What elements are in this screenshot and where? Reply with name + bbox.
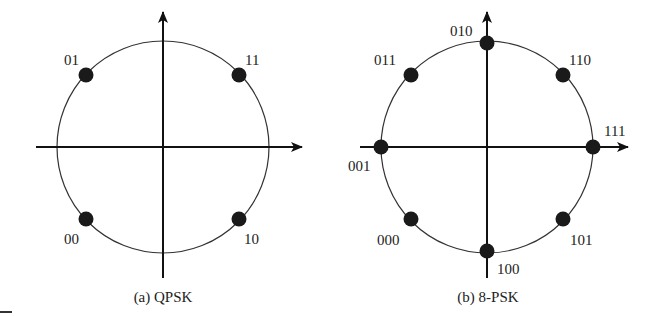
- constellation-point-001: [374, 140, 389, 155]
- constellation-point-101: [556, 212, 571, 227]
- constellation-point-100: [480, 244, 495, 259]
- constellation-point-111: [586, 140, 601, 155]
- constellation-point-010: [480, 36, 495, 51]
- point-label-001: 001: [348, 158, 371, 174]
- point-label-11: 11: [245, 52, 259, 68]
- point-label-01: 01: [64, 52, 79, 68]
- constellation-point-01: [79, 68, 94, 83]
- constellation-point-10: [232, 212, 247, 227]
- psk-constellation-diagram: 01110010 010011110001111000101100 (a) QP…: [0, 0, 661, 316]
- qpsk-caption: (a) QPSK: [134, 289, 193, 306]
- point-label-101: 101: [570, 232, 593, 248]
- point-label-00: 00: [64, 231, 79, 247]
- 8psk-caption: (b) 8-PSK: [457, 289, 518, 306]
- qpsk-panel: 01110010: [36, 12, 302, 278]
- point-label-10: 10: [244, 231, 259, 247]
- point-label-111: 111: [604, 123, 625, 139]
- constellation-point-000: [404, 212, 419, 227]
- point-label-010: 010: [450, 23, 473, 39]
- point-label-110: 110: [569, 52, 591, 68]
- point-label-000: 000: [377, 232, 400, 248]
- constellation-point-00: [79, 212, 94, 227]
- constellation-point-011: [404, 68, 419, 83]
- point-label-100: 100: [497, 261, 520, 277]
- point-label-011: 011: [374, 52, 396, 68]
- constellation-point-110: [556, 68, 571, 83]
- 8psk-panel: 010011110001111000101100: [348, 12, 628, 278]
- constellation-point-11: [232, 68, 247, 83]
